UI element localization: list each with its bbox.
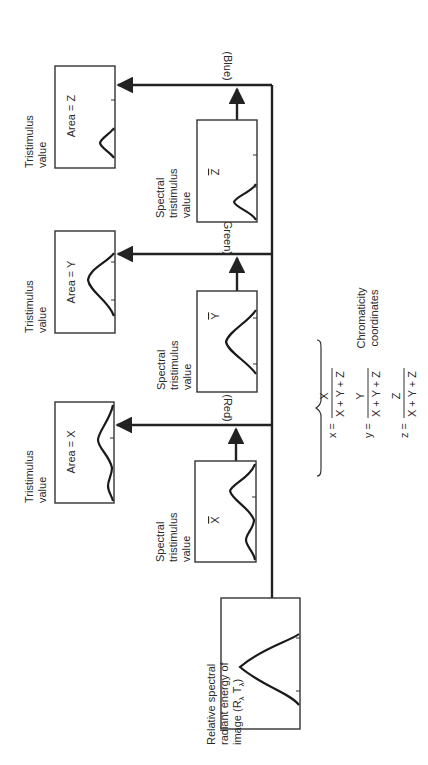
svg-text:z =: z = <box>398 423 410 438</box>
svg-text:Z: Z <box>390 392 402 399</box>
tristimulus-box-y: Area = Y Tristimulus value <box>23 231 115 333</box>
channel-label-red: (Red) <box>222 394 234 422</box>
y-bar-symbol: Y <box>209 312 221 320</box>
svg-text:x =: x = <box>326 423 338 438</box>
svg-text:tristimulus: tristimulus <box>168 340 180 390</box>
equation-x: x = X X + Y + Z <box>318 368 346 438</box>
spectral-box-x: X Spectral tristimulus value <box>154 461 256 562</box>
tristimulus-box-x: Area = X Tristimulus value <box>23 402 114 503</box>
svg-text:y =: y = <box>362 423 374 438</box>
svg-text:value: value <box>181 364 193 390</box>
spectral-box-y: Y Spectral tristimulus value <box>155 291 257 392</box>
svg-text:tristimulus: tristimulus <box>167 512 179 562</box>
svg-text:Tristimulus: Tristimulus <box>23 450 35 503</box>
svg-text:Spectral: Spectral <box>155 350 167 390</box>
svg-text:X + Y + Z: X + Y + Z <box>370 371 382 417</box>
area-y-label: Area = Y <box>65 260 77 304</box>
svg-text:value: value <box>180 536 192 562</box>
spectral-box-z: Z Spectral tristimulus value <box>154 120 257 222</box>
svg-text:Spectral: Spectral <box>154 178 166 218</box>
chromaticity-coordinates: Chromaticity coordinates x = X X + Y + Z… <box>316 287 418 476</box>
source-spectrum-box: Relative spectral radiant energy of imag… <box>205 598 300 745</box>
svg-text:Tristimulus: Tristimulus <box>23 280 35 333</box>
brace-icon <box>316 340 321 476</box>
area-z-label: Area = Z <box>65 94 77 137</box>
svg-text:Tristimulus: Tristimulus <box>23 115 35 168</box>
svg-text:X + Y + Z: X + Y + Z <box>334 371 346 417</box>
chromaticity-title-line2: coordinates <box>368 289 380 346</box>
svg-text:X + Y + Z: X + Y + Z <box>406 371 418 417</box>
source-label: Relative spectral <box>205 664 217 745</box>
svg-text:value: value <box>36 307 48 333</box>
svg-text:value: value <box>36 477 48 503</box>
chromaticity-title-line1: Chromaticity <box>355 287 367 349</box>
channel-label-blue: (Blue) <box>222 51 234 80</box>
equation-z: z = Z X + Y + Z <box>390 368 418 438</box>
channel-label-green: (Green) <box>222 217 234 255</box>
svg-text:Spectral: Spectral <box>154 522 166 562</box>
svg-text:value: value <box>180 192 192 218</box>
x-bar-symbol: X <box>209 516 221 524</box>
area-x-label: Area = X <box>65 430 77 474</box>
svg-text:X: X <box>318 392 330 400</box>
svg-text:tristimulus: tristimulus <box>167 168 179 218</box>
z-bar-symbol: Z <box>209 168 221 175</box>
svg-text:radiant energy of: radiant energy of <box>218 662 230 745</box>
equation-y: y = Y X + Y + Z <box>354 368 382 438</box>
svg-text:Y: Y <box>354 392 366 400</box>
tristimulus-diagram: (Blue) (Green) (Red) Relative spectral r… <box>0 0 428 765</box>
svg-text:value: value <box>36 142 48 168</box>
tristimulus-box-z: Area = Z Tristimulus value <box>23 66 115 168</box>
